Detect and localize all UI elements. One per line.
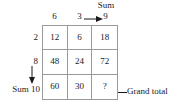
table-cell-r0c2: 18 bbox=[92, 26, 117, 50]
table-cell-r1c0: 48 bbox=[43, 50, 68, 74]
table-cell-grand-total: ? bbox=[92, 75, 117, 99]
arrow-down-icon bbox=[28, 66, 36, 84]
table-cell-r1c2: 72 bbox=[92, 50, 117, 74]
table-cell-r2c1: 30 bbox=[68, 75, 93, 99]
sum-left-label: Sum 10 bbox=[0, 85, 40, 94]
sum-top-label: Sum bbox=[88, 1, 124, 10]
value-grid: 12 6 18 48 24 72 60 30 ? bbox=[42, 25, 118, 100]
row-header-0: 2 bbox=[2, 33, 38, 42]
grand-total-label: Grand total bbox=[127, 87, 168, 96]
table-cell-r1c1: 24 bbox=[68, 50, 93, 74]
table-cell-r2c0: 60 bbox=[43, 75, 68, 99]
table-cell-r0c1: 6 bbox=[68, 26, 93, 50]
figure-container: Sum 6 3 9 2 8 Sum 10 12 6 18 48 24 72 60… bbox=[0, 0, 180, 108]
arrow-right-icon bbox=[84, 15, 103, 23]
grand-total-leader-line bbox=[118, 92, 127, 93]
row-header-1: 8 bbox=[2, 57, 38, 66]
column-header-0: 6 bbox=[42, 12, 67, 21]
table-cell-r0c0: 12 bbox=[43, 26, 68, 50]
